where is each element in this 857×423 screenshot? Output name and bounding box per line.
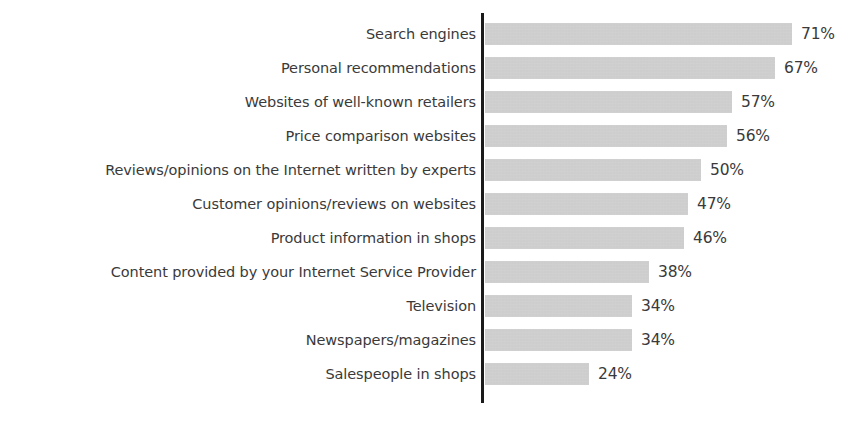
bar-row: Search engines71% [0, 23, 857, 45]
bar-rows: Search engines71%Personal recommendation… [0, 0, 857, 423]
bar-row: Newspapers/magazines34% [0, 329, 857, 351]
bar-row: Television34% [0, 295, 857, 317]
bar-row: Price comparison websites56% [0, 125, 857, 147]
bar [485, 363, 589, 385]
bar-value-label: 34% [641, 329, 675, 351]
bar-row: Content provided by your Internet Servic… [0, 261, 857, 283]
bar [485, 57, 775, 79]
bar [485, 91, 732, 113]
bar-category-label: Product information in shops [271, 227, 476, 249]
bar-category-label: Salespeople in shops [325, 363, 476, 385]
bar-category-label: Websites of well-known retailers [245, 91, 476, 113]
bar-row: Salespeople in shops24% [0, 363, 857, 385]
bar-value-label: 57% [741, 91, 775, 113]
bar-value-label: 47% [697, 193, 731, 215]
bar [485, 125, 727, 147]
bar-value-label: 71% [801, 23, 835, 45]
bar [485, 261, 649, 283]
bar-category-label: Reviews/opinions on the Internet written… [105, 159, 476, 181]
bar-category-label: Search engines [366, 23, 476, 45]
bar-chart: Search engines71%Personal recommendation… [0, 0, 857, 423]
bar-category-label: Customer opinions/reviews on websites [192, 193, 476, 215]
bar-category-label: Newspapers/magazines [306, 329, 476, 351]
bar [485, 159, 701, 181]
bar-value-label: 38% [658, 261, 692, 283]
bar-value-label: 67% [784, 57, 818, 79]
bar-row: Customer opinions/reviews on websites47% [0, 193, 857, 215]
bar-category-label: Content provided by your Internet Servic… [111, 261, 476, 283]
bar-value-label: 24% [598, 363, 632, 385]
bar-row: Product information in shops46% [0, 227, 857, 249]
bar-row: Reviews/opinions on the Internet written… [0, 159, 857, 181]
bar-category-label: Personal recommendations [281, 57, 476, 79]
bar [485, 23, 792, 45]
bar-row: Websites of well-known retailers57% [0, 91, 857, 113]
bar-value-label: 46% [693, 227, 727, 249]
bar-value-label: 34% [641, 295, 675, 317]
bar-category-label: Television [406, 295, 476, 317]
bar [485, 193, 688, 215]
bar-category-label: Price comparison websites [286, 125, 476, 147]
bar-row: Personal recommendations67% [0, 57, 857, 79]
bar [485, 227, 684, 249]
bar-value-label: 50% [710, 159, 744, 181]
bar-value-label: 56% [736, 125, 770, 147]
bar [485, 295, 632, 317]
bar [485, 329, 632, 351]
